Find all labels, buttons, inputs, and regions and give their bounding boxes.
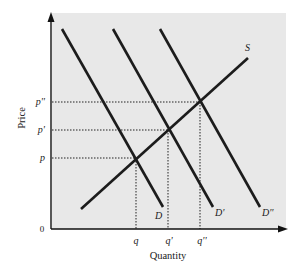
label-d: D xyxy=(154,210,163,221)
origin-label: 0 xyxy=(40,224,45,234)
y-axis-title: Price xyxy=(16,107,27,129)
x-tick-q-double-prime: q'' xyxy=(197,235,207,246)
y-tick-p: p xyxy=(39,152,45,163)
label-s: S xyxy=(245,42,250,53)
supply-demand-diagram: S D D' D'' p p' p'' q q' q'' 0 Quantity … xyxy=(0,0,298,274)
x-tick-q: q xyxy=(134,235,139,246)
label-d-double-prime: D'' xyxy=(261,207,274,218)
y-tick-p-prime: p' xyxy=(37,124,46,135)
x-axis-title: Quantity xyxy=(150,250,187,261)
y-tick-p-double-prime: p'' xyxy=(35,96,46,107)
x-tick-q-prime: q' xyxy=(165,235,173,246)
label-d-prime: D' xyxy=(214,207,225,218)
